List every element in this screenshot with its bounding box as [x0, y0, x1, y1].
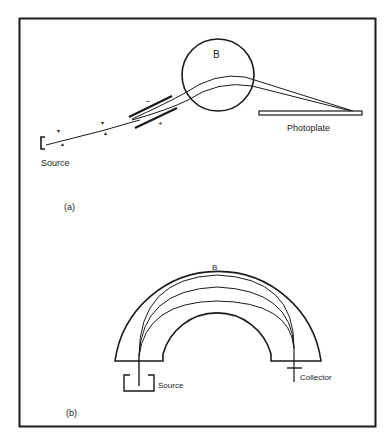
figure-frame [20, 19, 376, 427]
source-bracket-icon [41, 137, 45, 149]
ion-path-middle [139, 287, 294, 356]
ion-path-inner [139, 301, 294, 356]
magnet-label-b: B [212, 263, 217, 272]
panel-a-caption: (a) [64, 202, 75, 212]
panel-a: ▾ ▴ ▾ ▴ − + B Photoplate Source (a) [41, 39, 362, 212]
ion-marker: ▴ [61, 141, 64, 147]
magnet-label: B [213, 49, 220, 60]
ion-marker: ▾ [57, 128, 60, 134]
photoplate-label: Photoplate [287, 123, 330, 133]
panel-b-caption: (b) [66, 408, 77, 418]
mass-spectrometer-diagram: ▾ ▴ ▾ ▴ − + B Photoplate Source (a) B So… [0, 0, 392, 442]
ion-marker: ▴ [104, 130, 107, 136]
ion-marker: ▾ [101, 120, 104, 126]
positive-plate-label: + [158, 119, 163, 128]
collector-label: Collector [300, 373, 332, 382]
negative-plate-label: − [146, 97, 151, 106]
source-label-b: Source [158, 381, 184, 390]
photoplate [259, 111, 362, 115]
source-label: Source [41, 158, 70, 168]
panel-b: B Source Collector (b) [66, 263, 332, 418]
